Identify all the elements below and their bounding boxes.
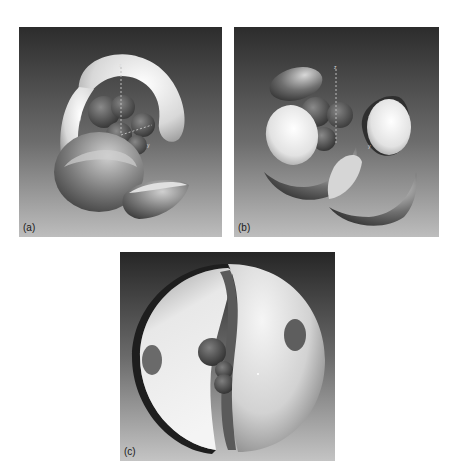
- figure-panel-c: (c): [120, 252, 335, 461]
- panel-label-a: (a): [23, 223, 35, 233]
- panel-label-c: (c): [124, 447, 136, 457]
- figure-panel-a: z y (a): [19, 27, 222, 237]
- orbital-render-b: z y: [234, 27, 439, 237]
- sphere-render-c: [120, 252, 335, 461]
- figure-panel-b: z y (b): [234, 27, 439, 237]
- panel-label-b: (b): [238, 223, 250, 233]
- orbital-render-a: z y: [19, 27, 222, 237]
